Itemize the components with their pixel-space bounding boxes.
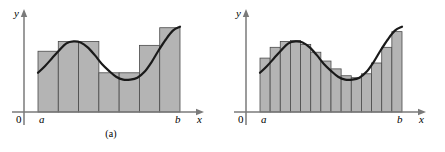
left-bound-label-b: a (261, 113, 267, 125)
bar (372, 63, 382, 112)
origin-label-a: 0 (16, 113, 22, 125)
bar (38, 51, 58, 112)
chart-panel-a: y x 0 a b (a) (0, 0, 222, 152)
right-bound-label-b: b (397, 113, 403, 125)
x-axis-label-b: x (418, 113, 424, 125)
origin-label-b: 0 (238, 113, 244, 125)
chart-b-svg: y x 0 a b (222, 0, 444, 152)
bar (392, 32, 402, 112)
bar (361, 74, 371, 112)
bar (351, 78, 361, 112)
y-axis-label-b: y (235, 7, 241, 19)
bar (301, 44, 311, 112)
bar (341, 76, 351, 112)
y-axis-label-a: y (13, 7, 19, 19)
bar (311, 52, 321, 112)
x-axis-label-a: x (196, 113, 202, 125)
y-axis-arrowhead (243, 9, 249, 17)
bar (280, 41, 290, 112)
riemann-sum-figure: y x 0 a b (a) y x 0 a b (b) (0, 0, 445, 152)
caption-a: (a) (0, 128, 222, 139)
bar (290, 40, 300, 112)
bar (99, 73, 119, 112)
y-axis-arrowhead (21, 9, 27, 17)
bar (160, 28, 180, 112)
bar (58, 41, 78, 112)
right-bound-label-a: b (175, 113, 181, 125)
left-bound-label-a: a (39, 113, 45, 125)
bar (260, 58, 270, 112)
bar (79, 41, 99, 112)
bar (382, 47, 392, 112)
chart-panel-b: y x 0 a b (b) (222, 0, 444, 152)
